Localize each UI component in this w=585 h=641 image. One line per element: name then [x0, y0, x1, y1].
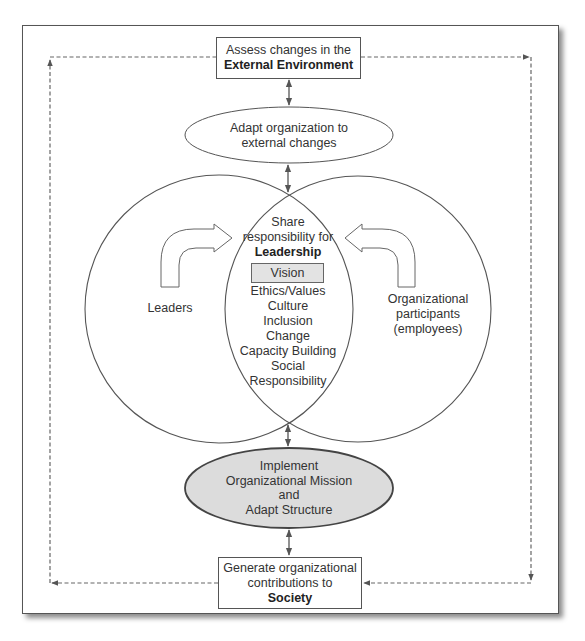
bottom-ellipse-line2: Organizational Mission [195, 474, 383, 489]
leaders-curved-arrow-icon [161, 224, 232, 287]
bottom-ellipse-line1: Implement [195, 459, 383, 474]
top-ellipse-line2: external changes [190, 136, 388, 151]
top-box-line2: External Environment [217, 58, 360, 73]
leadership-item: Capacity Building [228, 344, 348, 359]
leadership-items-list: Ethics/Values Culture Inclusion Change C… [228, 284, 348, 389]
top-box-line1: Assess changes in the [217, 43, 360, 58]
bottom-box-line3: Society [219, 591, 361, 606]
participants-line2: participants [378, 307, 478, 322]
leadership-item: Culture [228, 299, 348, 314]
leadership-item: Social [228, 359, 348, 374]
bottom-ellipse-line3: and [195, 488, 383, 503]
leadership-item: Inclusion [228, 314, 348, 329]
participants-curved-arrow-icon [345, 224, 415, 287]
shared-leadership-text: Share responsibility for Leadership [228, 215, 348, 260]
assess-external-environment-box: Assess changes in the External Environme… [216, 37, 361, 79]
top-ellipse-line1: Adapt organization to [190, 121, 388, 136]
participants-line3: (employees) [378, 322, 478, 337]
bottom-box-line1: Generate organizational [219, 561, 361, 576]
bottom-ellipse-line4: Adapt Structure [195, 503, 383, 518]
leadership-item: Change [228, 329, 348, 344]
adapt-organization-text: Adapt organization to external changes [190, 121, 388, 151]
shared-line1: Share [228, 215, 348, 230]
participants-label: Organizational participants (employees) [378, 292, 478, 337]
leaders-label: Leaders [130, 301, 210, 316]
participants-line1: Organizational [378, 292, 478, 307]
leadership-heading: Leadership [228, 245, 348, 260]
implement-mission-text: Implement Organizational Mission and Ada… [195, 459, 383, 517]
society-contributions-box: Generate organizational contributions to… [218, 557, 362, 609]
leadership-item: Responsibility [228, 374, 348, 389]
leadership-item: Ethics/Values [228, 284, 348, 299]
vision-box: Vision [251, 263, 324, 283]
bottom-box-line2: contributions to [219, 576, 361, 591]
shared-line2: responsibility for [228, 230, 348, 245]
